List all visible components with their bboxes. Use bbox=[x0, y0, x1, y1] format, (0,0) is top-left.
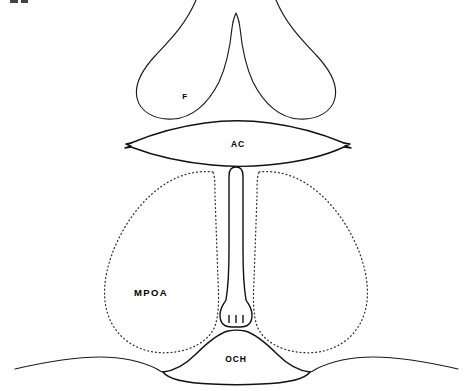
anterior-commissure-label: AC bbox=[231, 139, 245, 149]
optic-chiasm-label: OCH bbox=[225, 354, 247, 364]
figure-canvas: F AC MPOA bbox=[0, 0, 464, 391]
fornix-label: F bbox=[182, 92, 187, 101]
mpoa-label: MPOA bbox=[134, 287, 168, 298]
brain-section-diagram: F AC MPOA bbox=[0, 0, 464, 391]
figure-background bbox=[0, 0, 464, 391]
